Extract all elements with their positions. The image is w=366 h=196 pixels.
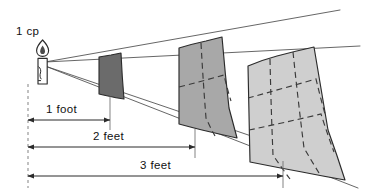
panel-3-feet	[248, 47, 345, 180]
dimension-2-feet-label: 2 feet	[93, 130, 125, 142]
source-label: 1 cp	[16, 25, 39, 37]
panel-1-foot	[99, 53, 124, 99]
panel-1-face	[99, 53, 124, 99]
dimension-2-feet: 2 feet	[28, 130, 195, 147]
illumination-diagram: 1 cp 1 foot 2 feet 3 feet	[0, 0, 366, 196]
dimension-3-feet-label: 3 feet	[140, 159, 172, 171]
dimension-3-feet: 3 feet	[28, 159, 283, 176]
dimension-1-foot: 1 foot	[28, 103, 110, 120]
diagram-canvas: 1 cp 1 foot 2 feet 3 feet	[0, 0, 366, 196]
panel-2-feet	[179, 37, 237, 138]
witness-lines	[28, 84, 283, 188]
dimension-1-foot-label: 1 foot	[46, 103, 78, 115]
candle-icon	[37, 40, 49, 84]
panel-3-face	[248, 47, 345, 180]
